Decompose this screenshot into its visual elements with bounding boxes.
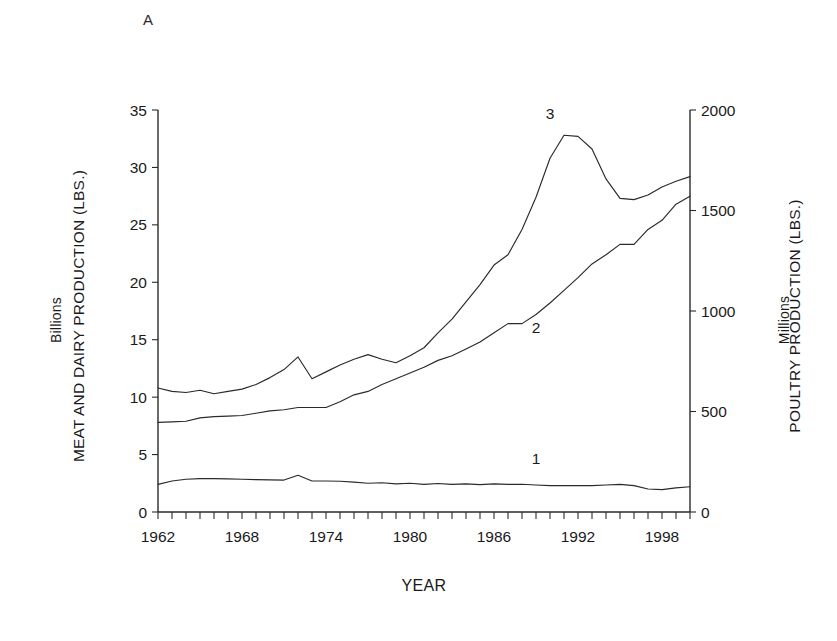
y-axis-left-tick-label: 5 (138, 446, 147, 463)
y-axis-left-tick-label: 30 (130, 159, 148, 176)
y-axis-right-tick-label: 1500 (701, 202, 736, 219)
y-axis-right-tick-label: 0 (701, 504, 710, 521)
y-axis-left-tick-label: 25 (130, 216, 147, 233)
series-label-1: 1 (532, 450, 541, 467)
y-axis-right-tick-label: 2000 (701, 102, 736, 119)
series-label-layer: 123 (532, 105, 555, 467)
x-axis-tick-label: 1992 (561, 528, 595, 545)
data-series-line-3 (158, 135, 690, 393)
y-axis-right-tick-label: 1000 (701, 303, 736, 320)
y-axis-right-tick-label: 500 (701, 403, 727, 420)
y-axis-left-tick-label: 20 (130, 274, 148, 291)
x-axis-tick-label: 1968 (225, 528, 259, 545)
y-axis-left-tick-label: 15 (130, 331, 147, 348)
x-axis-tick-label: 1980 (393, 528, 428, 545)
x-axis-tick-label: 1998 (645, 528, 679, 545)
series-layer (158, 135, 690, 489)
y-axis-left-tick-label: 35 (130, 102, 147, 119)
y-axis-left-tick-label: 0 (138, 504, 147, 521)
x-axis-tick-label: 1974 (309, 528, 344, 545)
series-label-2: 2 (532, 319, 541, 336)
data-series-line-1 (158, 475, 690, 489)
y-axis-left-tick-label: 10 (130, 389, 148, 406)
figure-panel-a: A MEAT AND DAIRY PRODUCTION (LBS.) Billi… (0, 0, 837, 641)
x-axis-tick-label: 1962 (141, 528, 175, 545)
x-axis-tick-label: 1986 (477, 528, 511, 545)
data-series-line-2 (158, 196, 690, 422)
series-label-3: 3 (546, 105, 555, 122)
line-chart-plot: 0510152025303505001000150020001962196819… (0, 0, 837, 641)
